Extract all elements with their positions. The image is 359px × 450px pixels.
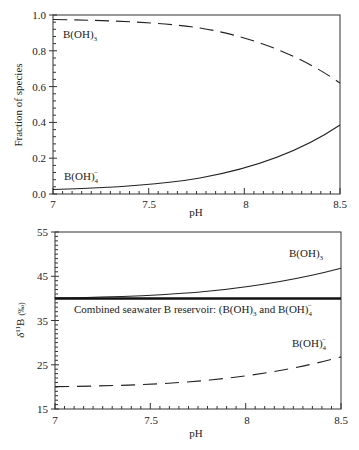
annotation-boh3: B(OH)3	[289, 247, 324, 262]
x-tick-label: 8	[243, 198, 249, 210]
bottom-x-tick-labels: 7 7.5 8 8.5	[52, 414, 348, 426]
y-tick-label: 55	[37, 226, 49, 238]
bottom-x-ticks	[55, 403, 341, 409]
top-y-tick-labels: 1.0 0.8 0.6 0.4 0.2 0.0	[32, 9, 46, 200]
y-tick-label: 1.0	[32, 9, 46, 21]
top-plot: 1.0 0.8 0.6 0.4 0.2 0.0 7 7.5 8 8.5 pH F…	[12, 9, 347, 218]
annotation-boh4: B(OH)4−	[64, 169, 99, 185]
bottom-y-axis-label: δ11B(‰)	[14, 302, 26, 338]
x-tick-label: 7	[50, 198, 56, 210]
y-tick-label: 0.2	[32, 152, 46, 164]
y-tick-label: 0.8	[32, 45, 46, 57]
top-y-axis-label: Fraction of species	[12, 63, 24, 146]
figure: 1.0 0.8 0.6 0.4 0.2 0.0 7 7.5 8 8.5 pH F…	[0, 0, 359, 450]
bottom-plot: 55 45 35 25 15 7 7.5 8 8.5 pH δ11B(‰) B(…	[14, 226, 348, 439]
y-tick-label: 0.0	[32, 188, 46, 200]
annotation-boh4: B(OH)4−	[292, 336, 327, 352]
series-boh3-dashed	[53, 20, 340, 84]
x-tick-label: 8	[244, 414, 250, 426]
x-tick-label: 7.5	[144, 414, 158, 426]
series-boh3-solid	[55, 268, 341, 298]
y-tick-label: 0.4	[32, 116, 46, 128]
top-x-axis-label: pH	[189, 206, 203, 218]
bottom-y-ticks	[51, 232, 59, 409]
x-tick-label: 7	[52, 414, 58, 426]
y-tick-label: 15	[37, 403, 49, 415]
bottom-x-axis-label: pH	[189, 427, 203, 439]
y-tick-label: 25	[37, 359, 49, 371]
x-tick-label: 8.5	[334, 414, 348, 426]
annotation-combined-reservoir: Combined seawater B reservoir: (B(OH)3 a…	[74, 302, 312, 318]
x-tick-label: 8.5	[333, 198, 347, 210]
annotation-boh3: B(OH)3	[63, 28, 98, 43]
y-tick-label: 0.6	[32, 81, 46, 93]
series-boh4-dashed	[55, 357, 341, 387]
y-tick-label: 45	[37, 270, 49, 282]
top-x-ticks	[53, 188, 340, 194]
y-tick-label: 35	[37, 315, 49, 327]
x-tick-label: 7.5	[142, 198, 156, 210]
bottom-y-tick-labels: 55 45 35 25 15	[37, 226, 49, 415]
